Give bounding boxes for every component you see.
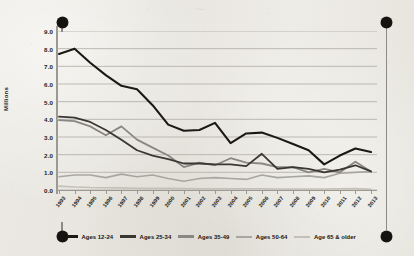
y-axis-title: Millions: [3, 87, 9, 111]
x-axis-tick-label: 2005: [242, 195, 254, 208]
chart-legend: Ages 12-24Ages 25-34Ages 35-49Ages 50-64…: [62, 231, 356, 242]
y-axis-tick-label: 4.0: [44, 116, 53, 123]
x-axis-tick-mark: [355, 191, 356, 194]
y-axis-tick-label: 8.0: [44, 45, 53, 52]
x-axis-tick-label: 2011: [335, 195, 347, 208]
x-axis-tick-label: 2004: [226, 195, 238, 208]
x-axis-tick-label: 2003: [210, 195, 222, 208]
legend-item[interactable]: Ages 25-34: [120, 234, 171, 240]
y-axis-tick-label: 1.0: [44, 169, 53, 176]
x-axis-tick-labels: 1993199419951996199719981999200020012002…: [57, 191, 377, 225]
legend-label: Ages 50-64: [256, 234, 288, 240]
x-axis-tick-label: 2013: [366, 195, 378, 208]
y-axis-tick-label: 7.0: [44, 63, 53, 70]
series-lines: [57, 31, 377, 190]
legend-color-swatch: [236, 236, 252, 238]
series-line: [59, 186, 371, 189]
legend-label: Ages 12-24: [82, 234, 114, 240]
x-axis-tick-label: 1993: [54, 195, 66, 208]
legend-item[interactable]: Ages 35-49: [178, 234, 229, 240]
x-axis-tick-mark: [277, 191, 278, 194]
top-right-pin-stem: [386, 24, 388, 230]
x-axis-tick-mark: [59, 191, 60, 194]
x-axis-tick-mark: [215, 191, 216, 194]
x-axis-tick-label: 2009: [304, 195, 316, 208]
y-axis-tick-label: 5.0: [44, 98, 53, 105]
x-axis-tick-mark: [293, 191, 294, 194]
x-axis-tick-label: 1996: [101, 195, 113, 208]
y-axis-tick-label: 9.0: [44, 28, 53, 35]
legend-color-swatch: [294, 236, 310, 238]
x-axis-tick-label: 1997: [117, 195, 129, 208]
x-axis-tick-mark: [90, 191, 91, 194]
top-right-pin: [381, 17, 392, 28]
x-axis-tick-label: 2008: [288, 195, 300, 208]
x-axis-tick-label: 1994: [70, 195, 82, 208]
x-axis-tick-label: 2001: [179, 195, 191, 208]
x-axis-tick-mark: [168, 191, 169, 194]
legend-color-swatch: [178, 235, 194, 237]
y-axis-tick-label: 2.0: [44, 151, 53, 158]
x-axis-tick-label: 2010: [320, 195, 332, 208]
legend-item[interactable]: Age 65 & older: [294, 234, 355, 240]
top-left-pin: [57, 17, 68, 28]
legend-color-swatch: [120, 235, 136, 237]
bottom-right-pin: [381, 231, 392, 242]
legend-label: Ages 25-34: [140, 234, 172, 240]
x-axis-tick-mark: [246, 191, 247, 194]
legend-label: Ages 35-49: [198, 234, 230, 240]
x-axis-tick-mark: [371, 191, 372, 194]
x-axis-tick-mark: [199, 191, 200, 194]
x-axis-tick-label: 1995: [86, 195, 98, 208]
x-axis-tick-mark: [231, 191, 232, 194]
legend-label: Age 65 & older: [314, 234, 356, 240]
bottom-left-pin: [57, 231, 68, 242]
x-axis-tick-label: 2000: [164, 195, 176, 208]
x-axis-tick-label: 2006: [257, 195, 269, 208]
x-axis-tick-mark: [184, 191, 185, 194]
plot-area: [57, 31, 377, 190]
x-axis-tick-label: 2002: [195, 195, 207, 208]
x-axis-tick-mark: [340, 191, 341, 194]
x-axis-tick-label: 2012: [351, 195, 363, 208]
y-axis-tick-label: 3.0: [44, 134, 53, 141]
x-axis-tick-mark: [324, 191, 325, 194]
x-axis-tick-mark: [75, 191, 76, 194]
x-axis-tick-label: 1999: [148, 195, 160, 208]
x-axis-tick-mark: [137, 191, 138, 194]
x-axis-tick-mark: [106, 191, 107, 194]
x-axis-tick-mark: [153, 191, 154, 194]
x-axis-tick-label: 2007: [273, 195, 285, 208]
x-axis-tick-mark: [309, 191, 310, 194]
series-line: [59, 49, 371, 165]
x-axis-tick-label: 1998: [132, 195, 144, 208]
x-axis-tick-mark: [121, 191, 122, 194]
legend-item[interactable]: Ages 50-64: [236, 234, 287, 240]
y-axis-tick-label: 6.0: [44, 81, 53, 88]
legend-item[interactable]: Ages 12-24: [62, 234, 113, 240]
x-axis-tick-mark: [262, 191, 263, 194]
y-axis-tick-labels: 9.08.07.06.05.04.03.02.01.00.0: [20, 0, 53, 256]
y-axis-tick-label: 0.0: [44, 187, 53, 194]
